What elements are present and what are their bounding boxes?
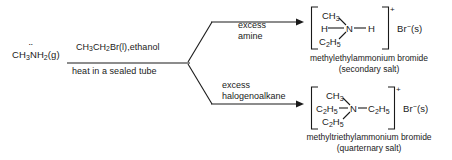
branch-label-lower-line1: excess (222, 80, 286, 91)
reactant-nitrogen-with-lone-pair: N¨ (30, 50, 37, 60)
branch-label-upper: excess amine (238, 20, 266, 43)
lower-product-counter-ion: Br−(s) (403, 104, 428, 114)
upper-product-name: methylethylammonium bromide (secondary s… (293, 53, 445, 75)
lone-pair-dots: ¨ (29, 43, 33, 54)
reactant-part-ch3: CH3 (12, 49, 30, 60)
lower-product-name-text: methyltriethylammonium bromide (288, 132, 450, 143)
upper-product-name-text: methylethylammonium bromide (293, 53, 445, 64)
branch-label-lower: excess halogenoalkane (222, 80, 286, 103)
condition-below-arrow: heat in a sealed tube (72, 66, 157, 76)
lower-product-name: methyltriethylammonium bromide (quartern… (288, 132, 450, 154)
lower-product-bonds (316, 88, 378, 128)
branch-label-upper-line1: excess (238, 20, 266, 31)
upper-product-charge: + (390, 6, 395, 14)
reactant-formula: CH3N¨H2(g) (12, 50, 60, 60)
lower-product-charge: + (396, 86, 401, 94)
upper-product-counter-ion: Br−(s) (397, 24, 422, 34)
upper-product-classification: (secondary salt) (293, 64, 445, 75)
upper-product-bonds (316, 8, 378, 48)
condition-above-arrow: CH3CH2Br(l),ethanol (76, 42, 160, 52)
branch-label-upper-line2: amine (238, 31, 266, 42)
lower-product-classification: (quarternary salt) (288, 143, 450, 154)
branch-label-lower-line2: halogenoalkane (222, 91, 286, 102)
reactant-part-h2g: H2(g) (37, 49, 60, 60)
